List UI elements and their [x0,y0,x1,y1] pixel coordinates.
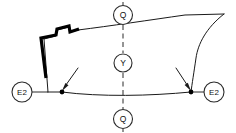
technical-drawing-canvas: Q Q Y E2 E2 [0,0,236,133]
leader-arrow-right [176,68,191,91]
datum-balloon-e2-left-label: E2 [17,88,27,97]
section-balloon-q-top-label: Q [120,10,127,20]
leader-arrow-right-head [185,83,191,91]
leader-arrow-left-head [62,83,69,91]
datum-balloon-e2-left[interactable]: E2 [12,82,32,102]
center-axis-balloon-y-label: Y [120,58,126,68]
profile-outline-group [44,14,224,95]
vertex-dot-left [60,90,65,95]
section-balloon-q-bottom-label: Q [120,114,127,124]
center-axis-balloon-y[interactable]: Y [114,54,132,72]
engineering-drawing-figure: Q Q Y E2 E2 [0,0,236,133]
profile-right-s-curve [191,14,224,92]
leader-arrow-left [62,68,78,91]
vertex-dot-right [189,90,194,95]
section-balloon-q-bottom[interactable]: Q [114,110,133,129]
profile-bottom-edge [48,92,191,95]
datum-balloon-e2-right-label: E2 [209,88,219,97]
datum-balloon-e2-right[interactable]: E2 [204,82,224,102]
profile-top-edge [44,14,224,39]
section-balloon-q-top[interactable]: Q [114,6,133,25]
